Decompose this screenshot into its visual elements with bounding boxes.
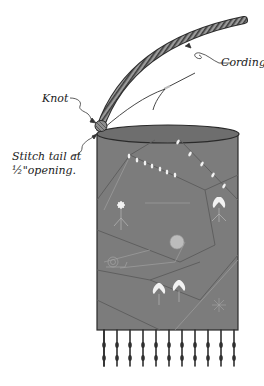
button-icon [170, 235, 184, 249]
label-cording: Cording [221, 56, 264, 69]
crazy-quilt-bag-diagram: Cording Knot Stitch tail at ½"opening. [0, 0, 264, 386]
bag-panel [97, 125, 239, 330]
cording [100, 20, 244, 128]
fringe [102, 330, 236, 366]
needle-icon [104, 73, 195, 128]
knot [95, 121, 107, 132]
label-stitch-tail-line2: ½"opening. [12, 164, 76, 177]
label-knot: Knot [41, 92, 69, 105]
label-stitch-tail-line1: Stitch tail at [12, 150, 82, 163]
